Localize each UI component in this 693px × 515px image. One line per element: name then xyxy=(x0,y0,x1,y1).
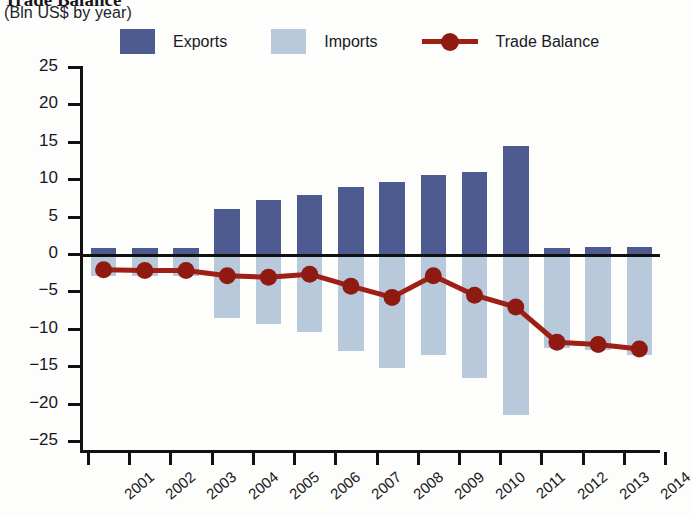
legend-swatch-imports xyxy=(271,29,306,54)
bar-imports xyxy=(462,254,488,378)
x-tick xyxy=(293,452,296,465)
bar-imports xyxy=(627,254,653,355)
x-tick xyxy=(334,452,337,465)
x-tick-label: 2014 xyxy=(657,468,693,502)
x-tick-label: 2012 xyxy=(574,468,610,502)
x-tick xyxy=(664,452,667,465)
y-tick xyxy=(68,365,80,368)
y-tick xyxy=(68,66,80,69)
x-tick-label: 2007 xyxy=(368,468,404,502)
y-tick-label: 20 xyxy=(14,93,58,113)
y-tick xyxy=(68,178,80,181)
bar-imports xyxy=(585,254,611,350)
chart-legend: Exports Imports Trade Balance xyxy=(120,29,599,54)
bar-imports xyxy=(256,254,282,324)
y-tick-label: −25 xyxy=(14,430,58,450)
bar-imports xyxy=(379,254,405,368)
x-axis-line xyxy=(80,450,660,453)
legend-item-imports[interactable]: Imports xyxy=(271,29,377,54)
bar-imports xyxy=(544,254,570,348)
y-tick xyxy=(68,290,80,293)
x-tick-label: 2001 xyxy=(121,468,157,502)
x-tick-label: 2002 xyxy=(162,468,198,502)
bar-exports xyxy=(297,195,323,254)
x-tick xyxy=(540,452,543,465)
x-tick-label: 2004 xyxy=(244,468,280,502)
bar-exports xyxy=(214,209,240,254)
x-tick xyxy=(87,452,90,465)
y-tick xyxy=(68,141,80,144)
x-tick xyxy=(458,452,461,465)
legend-swatch-trade-balance xyxy=(422,29,478,54)
x-tick xyxy=(417,452,420,465)
x-tick-label: 2008 xyxy=(409,468,445,502)
legend-swatch-exports xyxy=(120,29,155,54)
legend-label-exports: Exports xyxy=(173,33,227,51)
y-tick-label: 5 xyxy=(14,206,58,226)
bar-exports xyxy=(421,175,447,254)
y-tick-label: −20 xyxy=(14,393,58,413)
bar-imports xyxy=(503,254,529,415)
y-tick xyxy=(68,253,80,256)
x-tick xyxy=(252,452,255,465)
x-tick-label: 2009 xyxy=(451,468,487,502)
x-tick-label: 2003 xyxy=(203,468,239,502)
legend-item-trade-balance[interactable]: Trade Balance xyxy=(422,29,599,54)
legend-circle-marker xyxy=(441,33,459,51)
x-tick-label: 2005 xyxy=(286,468,322,502)
y-tick-label: −10 xyxy=(14,318,58,338)
y-tick xyxy=(68,403,80,406)
x-tick xyxy=(582,452,585,465)
x-tick xyxy=(499,452,502,465)
legend-item-exports[interactable]: Exports xyxy=(120,29,227,54)
bar-imports xyxy=(421,254,447,355)
bar-imports xyxy=(214,254,240,318)
y-tick xyxy=(68,216,80,219)
y-tick-label: 25 xyxy=(14,56,58,76)
x-tick-label: 2006 xyxy=(327,468,363,502)
x-tick-label: 2010 xyxy=(492,468,528,502)
bar-exports xyxy=(585,247,611,254)
x-tick xyxy=(169,452,172,465)
bar-exports xyxy=(462,172,488,254)
bar-exports xyxy=(338,187,364,254)
y-tick-label: 0 xyxy=(14,243,58,263)
bar-imports xyxy=(91,254,117,276)
y-tick xyxy=(68,440,80,443)
bar-imports xyxy=(297,254,323,332)
y-axis-line xyxy=(80,66,83,452)
legend-label-trade-balance: Trade Balance xyxy=(496,33,599,51)
y-tick-label: 10 xyxy=(14,168,58,188)
x-tick xyxy=(623,452,626,465)
bar-exports xyxy=(503,146,529,254)
bar-exports xyxy=(256,200,282,254)
y-tick-label: −5 xyxy=(14,280,58,300)
bar-imports xyxy=(132,254,158,276)
legend-label-imports: Imports xyxy=(324,33,377,51)
bar-imports xyxy=(338,254,364,351)
bar-exports xyxy=(627,247,653,254)
chart-subtitle: (Bln US$ by year) xyxy=(4,4,132,22)
y-tick-label: 15 xyxy=(14,131,58,151)
x-tick xyxy=(128,452,131,465)
y-tick-label: −15 xyxy=(14,355,58,375)
bar-exports xyxy=(379,182,405,254)
x-tick xyxy=(376,452,379,465)
y-tick xyxy=(68,328,80,331)
y-tick xyxy=(68,103,80,106)
bar-imports xyxy=(173,254,199,276)
x-tick xyxy=(211,452,214,465)
x-tick-label: 2011 xyxy=(533,468,569,502)
x-tick-label: 2013 xyxy=(615,468,651,502)
zero-baseline xyxy=(80,254,660,257)
